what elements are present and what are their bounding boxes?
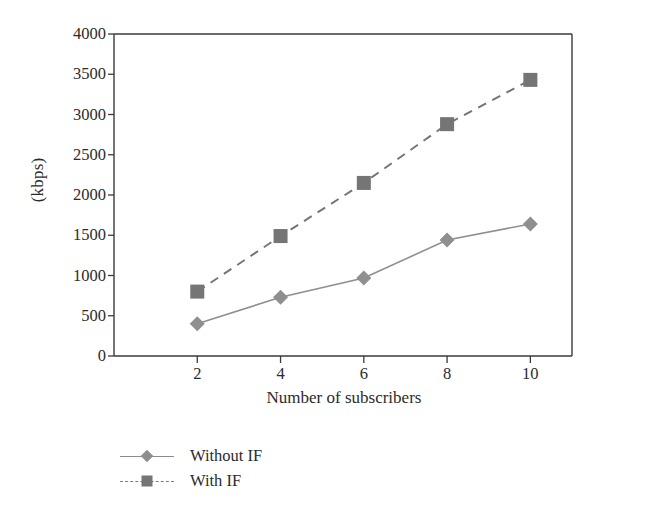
legend-key-with-if	[118, 471, 176, 491]
data-point-diamond-marker	[190, 316, 205, 331]
legend-key-without-if	[118, 446, 176, 466]
plot-svg	[114, 34, 572, 356]
data-point-square-marker	[274, 229, 288, 243]
x-tick-label: 6	[360, 364, 368, 384]
data-point-square-marker	[357, 176, 371, 190]
y-tick-label: 2000	[73, 185, 106, 205]
data-point-square-marker	[190, 285, 204, 299]
legend-label-with-if: With IF	[190, 471, 241, 491]
legend-item-without-if[interactable]: Without IF	[118, 443, 262, 468]
y-tick-label: 3000	[73, 105, 106, 125]
diamond-marker-icon	[141, 449, 154, 462]
y-tick-label: 1000	[73, 266, 106, 286]
y-tick-label: 1500	[73, 225, 106, 245]
y-tick-label: 0	[98, 346, 106, 366]
square-marker-icon	[142, 475, 153, 486]
data-point-diamond-marker	[440, 233, 455, 248]
x-tick-label: 4	[276, 364, 284, 384]
x-tick-label: 8	[443, 364, 451, 384]
x-axis-title: Number of subscribers	[114, 388, 574, 408]
data-point-square-marker	[523, 73, 537, 87]
x-tick-label: 2	[193, 364, 201, 384]
data-point-diamond-marker	[523, 216, 538, 231]
data-point-square-marker	[440, 117, 454, 131]
y-tick-label: 2500	[73, 145, 106, 165]
chart-figure: (kbps) 050010001500200025003000350040002…	[0, 0, 649, 506]
chart-legend: Without IF With IF	[118, 443, 262, 493]
legend-item-with-if[interactable]: With IF	[118, 468, 262, 493]
y-tick-label: 4000	[73, 24, 106, 44]
y-axis-title: (kbps)	[28, 135, 48, 225]
y-tick-label: 500	[81, 306, 106, 326]
data-point-diamond-marker	[273, 290, 288, 305]
y-tick-label: 3500	[73, 64, 106, 84]
data-point-diamond-marker	[356, 270, 371, 285]
x-tick-label: 10	[522, 364, 539, 384]
legend-label-without-if: Without IF	[190, 446, 262, 466]
plot-area: 05001000150020002500300035004000246810	[114, 34, 572, 356]
